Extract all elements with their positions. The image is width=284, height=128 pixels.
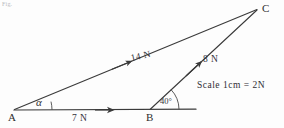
vector-arrowhead-ac [112,61,131,69]
vector-label-ab-7n: 7 N [72,113,87,123]
scale-note: Scale 1cm = 2N [197,80,265,90]
figure-caption: Fig. [2,1,12,7]
force-triangle-diagram [0,0,284,128]
point-label-a: A [8,111,16,123]
angle-arc-forty [171,90,179,110]
figure-canvas: Fig. A B C 7 N 14 N 8 N α 40° Scale 1cm … [0,0,284,128]
point-label-b: B [146,111,154,123]
angle-label-forty: 40° [160,96,172,106]
vector-arrowhead-bc [186,62,201,76]
angle-arc-alpha [51,102,52,110]
vector-label-bc-8n: 8 N [203,54,218,64]
angle-label-alpha: α [36,96,42,108]
point-label-c: C [262,2,270,14]
